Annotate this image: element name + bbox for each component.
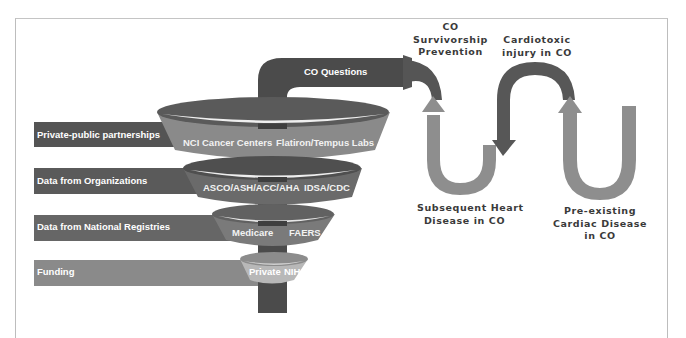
label-cardiotoxic-injury: Cardiotoxic injury in CO (492, 34, 582, 59)
left-bar-label-private-public: Private-public partnerships (37, 129, 160, 140)
funnel-item-idsa: IDSA/CDC (304, 182, 350, 193)
subsequent-u-curve (427, 115, 496, 195)
label-subsequent-heart-disease: Subsequent Heart Disease in CO (417, 202, 512, 227)
preexisting-u-curve (563, 106, 636, 200)
left-bar-label-registries: Data from National Registries (37, 221, 170, 232)
left-bar-label-organizations: Data from Organizations (37, 175, 147, 186)
funnel-item-flatiron: Flatiron/Tempus Labs (276, 137, 374, 148)
funnel-item-nih: NIH (284, 266, 300, 277)
funnel-item-faers: FAERS (289, 227, 321, 238)
label-co-survivorship-prevention: CO Survivorship Prevention (403, 21, 498, 59)
survivorship-arrowhead-left (403, 55, 412, 90)
funnel-item-private: Private (249, 266, 281, 277)
co-questions-label: CO Questions (304, 66, 367, 77)
funnel-item-nci: NCI Cancer Centers (183, 137, 272, 148)
preexisting-arrowhead-up (558, 96, 582, 113)
label-preexisting-cardiac-disease: Pre-existing Cardiac Disease in CO (552, 205, 648, 243)
funnel-item-asco: ASCO/ASH/ACC/AHA (203, 182, 300, 193)
left-bar-label-funding: Funding (37, 266, 74, 277)
funnel-item-medicare: Medicare (232, 227, 273, 238)
